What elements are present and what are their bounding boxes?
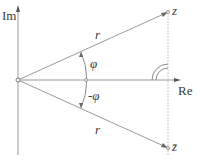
arc-axis-intersection bbox=[85, 79, 88, 82]
complex-plane-diagram: Im Re z z̄ r r φ -φ bbox=[0, 0, 200, 161]
real-axis-arrow-icon bbox=[174, 78, 181, 82]
z-point bbox=[167, 11, 170, 14]
upper-angle-label: φ bbox=[90, 57, 97, 70]
origin-point bbox=[16, 78, 20, 82]
zbar-point bbox=[167, 147, 170, 150]
z-label: z bbox=[172, 4, 177, 17]
right-angle-mark-outer bbox=[152, 64, 168, 80]
upper-modulus-label: r bbox=[95, 28, 100, 41]
real-axis-label: Re bbox=[178, 84, 192, 97]
zbar-label: z̄ bbox=[172, 140, 177, 153]
diagram-canvas bbox=[0, 0, 200, 161]
lower-modulus-label: r bbox=[95, 123, 100, 136]
lower-angle-label: -φ bbox=[88, 89, 100, 102]
imaginary-axis-arrow-icon bbox=[16, 5, 20, 12]
right-angle-mark-inner bbox=[156, 68, 168, 80]
imaginary-axis-label: Im bbox=[2, 9, 16, 22]
